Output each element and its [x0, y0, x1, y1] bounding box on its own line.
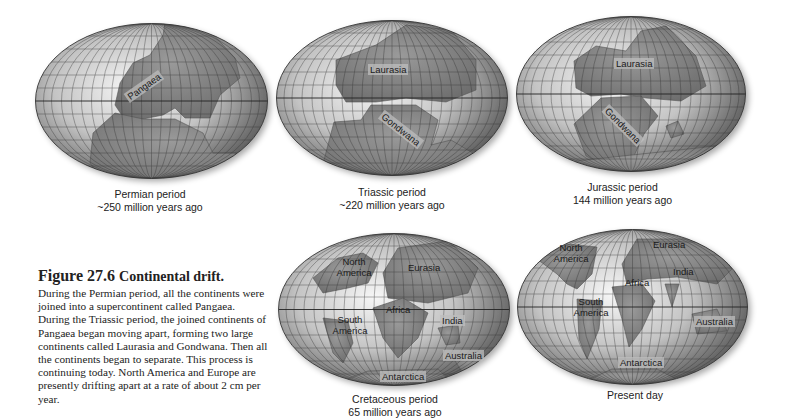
globe-icon	[35, 23, 268, 179]
map-label-north-america: North America	[326, 256, 382, 278]
map-caption-present: Present day	[545, 389, 725, 402]
map-label-india: India	[440, 315, 465, 326]
map-label-australia: Australia	[694, 316, 735, 327]
map-caption-cretaceous: Cretaceous period 65 million years ago	[305, 393, 485, 419]
map-caption-line1: Triassic period	[302, 186, 482, 199]
map-label-antarctica: Antarctica	[380, 371, 426, 382]
map-caption-line2: 65 million years ago	[305, 406, 485, 419]
map-caption-line1: Present day	[545, 389, 725, 402]
map-label-eurasia: Eurasia	[406, 262, 442, 273]
map-caption-line1: Cretaceous period	[305, 393, 485, 406]
globe-present: North America Eurasia India Africa South…	[517, 229, 748, 385]
map-label-africa: Africa	[623, 277, 651, 288]
map-caption-triassic: Triassic period ~220 million years ago	[302, 186, 482, 212]
map-caption-permian: Permian period ~250 million years ago	[60, 188, 240, 214]
globe-cretaceous: North America Eurasia Africa South Ameri…	[278, 233, 510, 386]
map-caption-jurassic: Jurassic period 144 million years ago	[530, 181, 715, 207]
map-label-south-america: South America	[322, 314, 378, 336]
map-caption-line2: 144 million years ago	[530, 194, 715, 207]
map-caption-line1: Jurassic period	[530, 181, 715, 194]
map-caption-line1: Permian period	[60, 188, 240, 201]
globe-icon	[516, 16, 746, 172]
map-label-india: India	[671, 266, 696, 277]
figure-description: During the Permian period, all the conti…	[38, 287, 268, 406]
globe-triassic: Laurasia Gondwana	[276, 20, 508, 176]
map-label-south-america: South America	[563, 296, 619, 318]
globe-jurassic: Laurasia Gondwana	[516, 16, 746, 172]
map-label-laurasia: Laurasia	[368, 64, 408, 75]
map-label-antarctica: Antarctica	[618, 357, 664, 368]
figure-number: Figure 27.6	[38, 267, 115, 284]
map-label-africa: Africa	[384, 304, 412, 315]
map-label-laurasia: Laurasia	[614, 58, 654, 69]
figure-name: Continental drift.	[119, 269, 224, 284]
map-caption-line2: ~250 million years ago	[60, 201, 240, 214]
figure-title: Figure 27.6Continental drift.	[38, 267, 268, 286]
globe-icon	[276, 20, 508, 176]
map-label-australia: Australia	[443, 350, 484, 361]
map-caption-line2: ~220 million years ago	[302, 199, 482, 212]
map-label-north-america: North America	[543, 242, 599, 264]
map-label-eurasia: Eurasia	[651, 239, 687, 250]
figure-caption: Figure 27.6Continental drift. During the…	[38, 267, 268, 406]
globe-permian: Pangaea	[35, 23, 268, 179]
